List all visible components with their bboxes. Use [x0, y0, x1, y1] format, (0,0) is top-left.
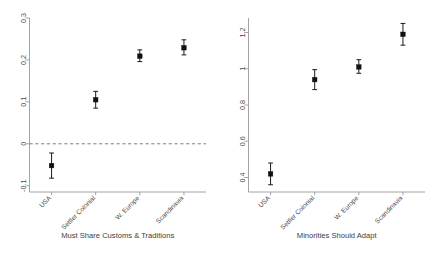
x-tick-label: USA: [38, 194, 53, 209]
x-tick-label: USA: [257, 194, 272, 209]
data-point-marker[interactable]: [401, 32, 406, 37]
data-point-marker[interactable]: [312, 77, 317, 82]
x-tick-label: Settler Colonial: [279, 194, 316, 231]
x-tick-label: W. Europe: [333, 194, 361, 222]
y-tick-label: 0.6: [238, 136, 247, 146]
data-point-marker[interactable]: [268, 172, 273, 177]
x-axis-title: Minorities Should Adapt: [297, 231, 378, 240]
figure-canvas: -0.100.10.20.3USASettler ColonialW. Euro…: [0, 0, 438, 260]
x-axis-title: Must Share Customs & Traditions: [61, 231, 174, 240]
chart-panel-left: -0.100.10.20.3USASettler ColonialW. Euro…: [0, 0, 219, 260]
y-tick-label: 0.2: [19, 55, 28, 65]
y-tick-label: 0: [19, 142, 28, 146]
data-point-marker[interactable]: [49, 163, 54, 168]
data-point-marker[interactable]: [93, 97, 98, 102]
y-tick-label: 1.2: [238, 28, 247, 38]
y-tick-label: 0.8: [238, 100, 247, 110]
chart-panel-right: 0.40.60.811.2USASettler ColonialW. Europ…: [219, 0, 438, 260]
plot-area-left: -0.100.10.20.3USASettler ColonialW. Euro…: [0, 0, 219, 260]
y-tick-label: 1: [238, 67, 247, 71]
x-tick-label: W. Europe: [114, 194, 142, 222]
y-tick-label: 0.1: [19, 97, 28, 107]
data-point-marker[interactable]: [182, 45, 187, 50]
data-point-marker[interactable]: [138, 54, 143, 59]
y-tick-label: -0.1: [19, 180, 28, 192]
y-tick-label: 0.4: [238, 173, 247, 183]
plot-area-right: 0.40.60.811.2USASettler ColonialW. Europ…: [219, 0, 438, 260]
x-tick-label: Scandinavia: [154, 194, 185, 225]
x-tick-label: Settler Colonial: [60, 194, 97, 231]
data-point-marker[interactable]: [357, 65, 362, 70]
y-tick-label: 0.3: [19, 13, 28, 23]
x-tick-label: Scandinavia: [373, 194, 404, 225]
